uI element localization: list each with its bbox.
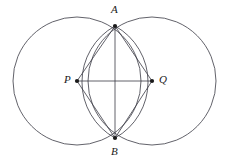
label-q: Q — [159, 74, 167, 85]
lens-left-arc — [82, 26, 115, 138]
segment-pb — [77, 81, 115, 138]
segment-qb — [115, 81, 152, 138]
lens-right-arc — [115, 26, 148, 138]
label-b: B — [111, 146, 118, 157]
label-a: A — [111, 4, 118, 15]
geometry-canvas — [0, 0, 230, 165]
vertex-dot-q — [150, 79, 154, 83]
vertex-dot-p — [75, 79, 79, 83]
segment-qa — [115, 26, 152, 81]
vertex-dot-b — [113, 136, 117, 140]
segment-pa — [77, 26, 115, 81]
vertex-dot-a — [113, 24, 117, 28]
label-p: P — [64, 74, 71, 85]
geometry-figure: A B P Q — [0, 0, 230, 165]
